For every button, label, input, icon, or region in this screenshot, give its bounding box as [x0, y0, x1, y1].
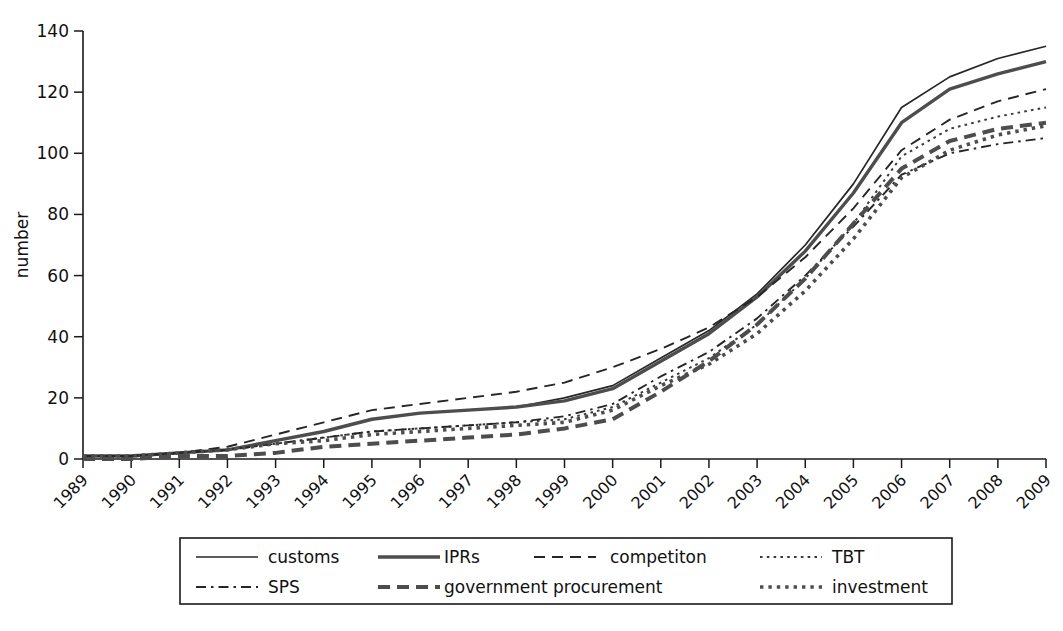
x-tick-label: 1993: [242, 470, 284, 512]
legend-label-tbt: TBT: [831, 547, 865, 567]
series-line-sps: [83, 138, 1046, 456]
x-tick-label: 2000: [579, 470, 621, 512]
series-line-customs: [83, 46, 1046, 456]
x-tick-label: 2009: [1013, 470, 1055, 512]
y-tick-label: 120: [37, 82, 69, 102]
x-tick-label: 1992: [194, 470, 236, 512]
x-tick-label: 2004: [772, 470, 814, 512]
x-tick-group: 1989199019911992199319941995199619971998…: [50, 459, 1055, 513]
x-tick-label: 1997: [435, 470, 477, 512]
x-tick-label: 1990: [98, 470, 140, 512]
chart-container: number 020406080100120140 19891990199119…: [0, 0, 1063, 631]
x-tick-label: 2006: [868, 470, 910, 512]
series-line-government-procurement: [83, 123, 1046, 459]
x-tick-label: 2002: [676, 470, 718, 512]
x-tick-label: 1991: [146, 470, 188, 512]
y-tick-label: 140: [37, 21, 69, 41]
legend-group: customsIPRscompetitonTBTSPSgovernment pr…: [196, 547, 928, 597]
y-tick-label: 100: [37, 143, 69, 163]
legend-label-customs: customs: [268, 547, 340, 567]
line-chart: number 020406080100120140 19891990199119…: [0, 0, 1063, 631]
x-tick-label: 1996: [387, 470, 429, 512]
x-tick-label: 2007: [916, 470, 958, 512]
x-tick-label: 1999: [531, 470, 573, 512]
x-tick-label: 1994: [290, 470, 332, 512]
series-line-tbt: [83, 107, 1046, 456]
x-tick-label: 1995: [339, 470, 381, 512]
y-tick-label: 80: [47, 204, 69, 224]
legend-label-government-procurement: government procurement: [444, 577, 663, 597]
y-axis-label-text: number: [12, 212, 32, 278]
axes-group: [83, 31, 1046, 459]
y-axis-label: number: [12, 212, 32, 278]
legend-label-investment: investment: [832, 577, 928, 597]
x-tick-label: 2008: [964, 470, 1006, 512]
y-tick-label: 20: [47, 388, 69, 408]
x-tick-label: 2003: [724, 470, 766, 512]
x-tick-label: 1998: [483, 470, 525, 512]
series-group: [83, 46, 1046, 459]
y-tick-label: 0: [58, 449, 69, 469]
x-tick-label: 1989: [50, 470, 92, 512]
series-line-iprs: [83, 62, 1046, 456]
legend-label-sps: SPS: [268, 577, 300, 597]
y-tick-label: 60: [47, 266, 69, 286]
legend-label-iprs: IPRs: [444, 547, 480, 567]
y-tick-label: 40: [47, 327, 69, 347]
y-tick-group: 020406080100120140: [37, 21, 83, 469]
legend-label-competiton: competiton: [610, 547, 707, 567]
x-tick-label: 2005: [820, 470, 862, 512]
x-tick-label: 2001: [627, 470, 669, 512]
